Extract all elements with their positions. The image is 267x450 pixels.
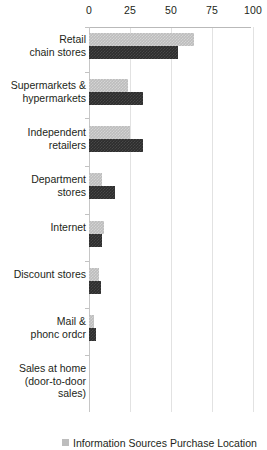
category-label-independent-retailers: Independent retailers <box>0 126 86 151</box>
bar-light-retail-chain-stores <box>89 33 194 46</box>
x-tick-label-0: 0 <box>86 4 92 16</box>
bar-chart: 0 25 50 75 100 Retail chain stores <box>0 0 267 450</box>
bar-dark-independent-retailers <box>89 139 143 152</box>
category-label-line: Independent <box>0 126 86 139</box>
category-label-line: Sales at home <box>0 362 86 375</box>
bar-light-department-stores <box>89 173 102 186</box>
x-tick-label-25: 25 <box>124 4 136 16</box>
category-label-supermarkets-hypermarkets: Supermarkets & hypermarkets <box>0 79 86 104</box>
bar-dark-discount-stores <box>89 281 101 294</box>
category-label-mail-phone-order: Mail & phonc ordcr <box>0 315 86 340</box>
legend-label: Information Sources Purchase Location <box>73 437 257 450</box>
bar-group-department-stores: Department stores <box>0 173 267 217</box>
category-label-line: stores <box>0 186 86 199</box>
legend-swatch-icon <box>62 439 69 446</box>
category-label-line: retailers <box>0 139 86 152</box>
bar-light-mail-phone-order <box>89 315 94 328</box>
bar-light-internet <box>89 221 104 234</box>
bar-light-discount-stores <box>89 268 99 281</box>
bar-light-independent-retailers <box>89 126 130 139</box>
x-axis-tick-labels: 0 25 50 75 100 <box>0 4 267 18</box>
category-label-retail-chain-stores: Retail chain stores <box>0 33 86 58</box>
category-label-line: Internet <box>0 221 86 234</box>
x-tick-label-100: 100 <box>244 4 262 16</box>
x-tick-label-50: 50 <box>165 4 177 16</box>
category-label-department-stores: Department stores <box>0 173 86 198</box>
bar-group-mail-phone-order: Mail & phonc ordcr <box>0 315 267 359</box>
category-label-line: Mail & <box>0 315 86 328</box>
category-label-line: chain stores <box>0 46 86 59</box>
category-label-discount-stores: Discount stores <box>0 268 86 281</box>
category-label-line: Supermarkets & <box>0 79 86 92</box>
bar-dark-retail-chain-stores <box>89 46 178 59</box>
category-label-line: Department <box>0 173 86 186</box>
category-label-line: sales) <box>0 387 86 400</box>
category-label-internet: Internet <box>0 221 86 234</box>
chart-legend: Information Sources Purchase Location <box>0 437 267 450</box>
category-label-line: Discount stores <box>0 268 86 281</box>
bar-group-retail-chain-stores: Retail chain stores <box>0 33 267 77</box>
bar-group-internet: Internet <box>0 221 267 265</box>
category-label-line: phonc ordcr <box>0 328 86 341</box>
category-label-line: (door-to-door <box>0 375 86 388</box>
bar-dark-supermarkets-hypermarkets <box>89 92 143 105</box>
bar-groups: Retail chain stores Supermarkets & hyper… <box>0 27 267 412</box>
category-label-line: hypermarkets <box>0 92 86 105</box>
bar-light-supermarkets-hypermarkets <box>89 79 128 92</box>
bar-group-supermarkets-hypermarkets: Supermarkets & hypermarkets <box>0 79 267 123</box>
bar-dark-internet <box>89 234 102 247</box>
bar-group-sales-at-home: Sales at home (door-to-door sales) <box>0 362 267 412</box>
bar-dark-mail-phone-order <box>89 328 96 341</box>
bar-group-independent-retailers: Independent retailers <box>0 126 267 170</box>
bar-dark-department-stores <box>89 186 115 199</box>
category-label-line: Retail <box>0 33 86 46</box>
category-label-sales-at-home: Sales at home (door-to-door sales) <box>0 362 86 400</box>
bar-group-discount-stores: Discount stores <box>0 268 267 312</box>
x-tick-label-75: 75 <box>206 4 218 16</box>
